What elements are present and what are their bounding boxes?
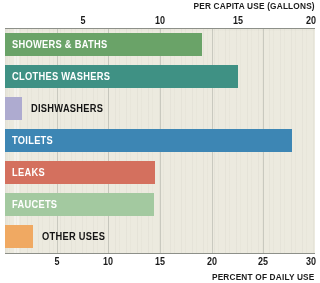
bars-layer: SHOWERS & BATHSCLOTHES WASHERSDISHWASHER… [5,29,315,253]
top-tick-label: 15 [232,14,242,27]
bar-row: TOILETS [5,125,315,157]
bar-label: TOILETS [12,129,53,152]
bar [5,225,33,248]
bottom-tick-label: 30 [306,255,316,268]
bottom-tick-label: 25 [258,255,268,268]
top-tick-label: 5 [80,14,85,27]
bar-label: DISHWASHERS [31,97,103,120]
bottom-tick-label: 10 [103,255,113,268]
water-use-bar-chart: PER CAPITA USE (GALLONS) 5101520 SHOWERS… [0,0,320,283]
bar-row: OTHER USES [5,221,315,253]
bar-label: LEAKS [12,161,45,184]
bar-label: SHOWERS & BATHS [12,33,107,56]
bottom-tick-label: 5 [54,255,59,268]
bar-label: CLOTHES WASHERS [12,65,110,88]
bottom-axis-tick-labels: 51015202530 [0,255,320,268]
bar-row: FAUCETS [5,189,315,221]
bottom-tick-label: 20 [207,255,217,268]
bar-label: FAUCETS [12,193,57,216]
bar-label: OTHER USES [42,225,105,248]
top-tick-label: 10 [155,14,165,27]
bar-row: SHOWERS & BATHS [5,29,315,61]
bar-row: CLOTHES WASHERS [5,61,315,93]
bottom-tick-label: 15 [155,255,165,268]
bar-row: DISHWASHERS [5,93,315,125]
top-tick-label: 20 [306,14,316,27]
bottom-axis-title: PERCENT OF DAILY USE [212,272,315,282]
top-axis-rule [5,28,315,29]
bar [5,97,22,120]
top-axis-tick-labels: 5101520 [0,14,320,27]
top-axis-title: PER CAPITA USE (GALLONS) [194,1,315,11]
bar-row: LEAKS [5,157,315,189]
bottom-axis-rule [5,253,315,254]
